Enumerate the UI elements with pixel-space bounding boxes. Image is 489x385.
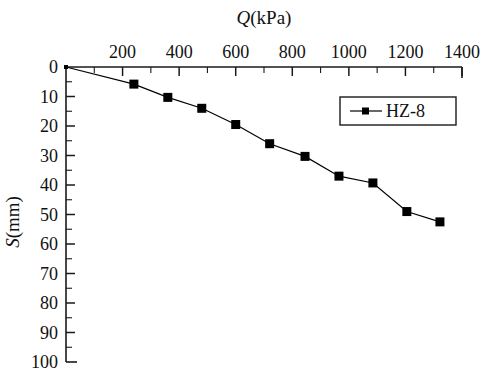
chart-page: 200400600800100012001400 010203040506070… <box>0 0 489 385</box>
data-point-marker <box>368 178 377 187</box>
y-tick-label: 50 <box>40 205 58 225</box>
y-axis-title-unit: (mm) <box>2 196 24 238</box>
data-point-marker <box>265 139 274 148</box>
x-tick-label: 1200 <box>387 42 423 62</box>
y-tick-label: 20 <box>40 116 58 136</box>
legend-label: HZ-8 <box>386 101 425 121</box>
data-point-marker <box>64 65 68 69</box>
line-chart: 200400600800100012001400 010203040506070… <box>0 0 489 385</box>
data-point-marker <box>435 217 444 226</box>
data-point-marker <box>301 152 310 161</box>
y-tick-label: 30 <box>40 146 58 166</box>
x-axis-tick-labels: 200400600800100012001400 <box>109 42 480 62</box>
data-point-marker <box>402 207 411 216</box>
x-axis-title-symbol: Q <box>237 7 251 28</box>
legend[interactable]: HZ-8 <box>340 97 456 125</box>
data-point-marker <box>129 80 138 89</box>
data-point-marker <box>334 172 343 181</box>
x-axis-title-unit: (kPa) <box>250 7 291 29</box>
data-point-marker <box>163 93 172 102</box>
x-tick-label: 600 <box>222 42 249 62</box>
y-axis-title: S(mm) <box>2 196 24 248</box>
y-tick-label: 80 <box>40 293 58 313</box>
y-tick-label: 100 <box>31 352 58 372</box>
x-tick-label: 400 <box>166 42 193 62</box>
data-point-marker <box>197 104 206 113</box>
x-tick-label: 800 <box>279 42 306 62</box>
y-axis-tick-labels: 0102030405060708090100 <box>31 57 58 372</box>
legend-marker-icon <box>362 108 369 115</box>
y-tick-label: 90 <box>40 323 58 343</box>
x-tick-label: 1000 <box>331 42 367 62</box>
y-tick-label: 10 <box>40 87 58 107</box>
x-tick-label: 1400 <box>444 42 480 62</box>
y-tick-label: 40 <box>40 175 58 195</box>
y-tick-label: 60 <box>40 234 58 254</box>
y-tick-label: 0 <box>49 57 58 77</box>
x-axis-title: Q(kPa) <box>237 7 292 29</box>
y-tick-label: 70 <box>40 264 58 284</box>
y-axis-title-symbol: S <box>2 238 23 248</box>
data-point-marker <box>231 120 240 129</box>
x-tick-label: 200 <box>109 42 136 62</box>
